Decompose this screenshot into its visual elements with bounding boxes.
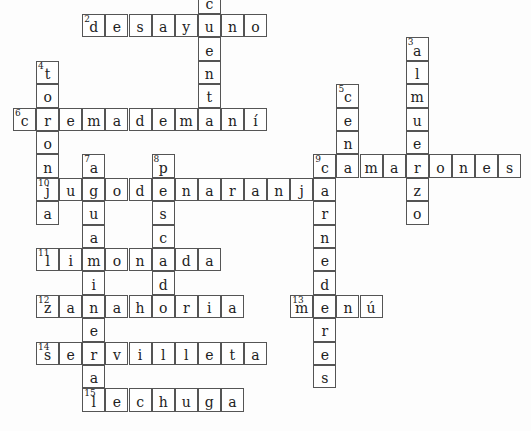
crossword-cell[interactable]: e: [313, 342, 336, 365]
crossword-cell[interactable]: u: [175, 388, 198, 411]
crossword-cell[interactable]: d: [129, 108, 152, 131]
crossword-cell[interactable]: 4t: [36, 61, 59, 84]
crossword-cell[interactable]: ú: [360, 295, 383, 318]
crossword-cell[interactable]: h: [129, 295, 152, 318]
crossword-cell[interactable]: e: [59, 342, 82, 365]
crossword-cell[interactable]: 12z: [36, 295, 59, 318]
crossword-cell[interactable]: e: [152, 178, 175, 201]
crossword-cell[interactable]: e: [198, 342, 221, 365]
crossword-cell[interactable]: a: [383, 154, 406, 177]
crossword-cell[interactable]: m: [406, 84, 429, 107]
crossword-cell[interactable]: y: [175, 14, 198, 37]
crossword-cell[interactable]: t: [221, 342, 244, 365]
crossword-cell[interactable]: m: [360, 154, 383, 177]
crossword-cell[interactable]: d: [129, 178, 152, 201]
crossword-cell[interactable]: e: [198, 37, 221, 60]
crossword-cell[interactable]: n: [452, 154, 475, 177]
crossword-cell[interactable]: m: [82, 108, 105, 131]
crossword-cell[interactable]: r: [313, 201, 336, 224]
crossword-cell[interactable]: a: [221, 388, 244, 411]
crossword-cell[interactable]: r: [406, 154, 429, 177]
crossword-cell[interactable]: n: [336, 295, 359, 318]
crossword-cell[interactable]: u: [198, 14, 221, 37]
crossword-cell[interactable]: c: [152, 225, 175, 248]
crossword-cell[interactable]: í: [244, 108, 267, 131]
crossword-cell[interactable]: u: [406, 108, 429, 131]
crossword-cell[interactable]: o: [105, 178, 128, 201]
crossword-cell[interactable]: a: [82, 365, 105, 388]
crossword-cell[interactable]: a: [152, 14, 175, 37]
crossword-cell[interactable]: a: [82, 225, 105, 248]
crossword-cell[interactable]: e: [313, 295, 336, 318]
crossword-cell[interactable]: v: [105, 342, 128, 365]
crossword-cell[interactable]: s: [498, 154, 521, 177]
crossword-cell[interactable]: g: [82, 178, 105, 201]
crossword-cell[interactable]: s: [129, 14, 152, 37]
crossword-cell[interactable]: r: [313, 318, 336, 341]
crossword-cell[interactable]: e: [59, 108, 82, 131]
crossword-cell[interactable]: o: [152, 295, 175, 318]
crossword-cell[interactable]: 15l: [82, 388, 105, 411]
crossword-cell[interactable]: a: [198, 248, 221, 271]
crossword-cell[interactable]: s: [313, 365, 336, 388]
crossword-cell[interactable]: e: [336, 108, 359, 131]
crossword-cell[interactable]: a: [198, 108, 221, 131]
crossword-cell[interactable]: 6c: [13, 108, 36, 131]
crossword-cell[interactable]: o: [429, 154, 452, 177]
crossword-cell[interactable]: m: [82, 248, 105, 271]
crossword-cell[interactable]: a: [244, 178, 267, 201]
crossword-cell[interactable]: n: [129, 248, 152, 271]
crossword-cell[interactable]: o: [36, 131, 59, 154]
crossword-cell[interactable]: 9c: [313, 154, 336, 177]
crossword-cell[interactable]: d: [313, 271, 336, 294]
crossword-cell[interactable]: r: [82, 342, 105, 365]
crossword-cell[interactable]: a: [221, 295, 244, 318]
crossword-cell[interactable]: a: [336, 154, 359, 177]
crossword-cell[interactable]: 3a: [406, 37, 429, 60]
crossword-cell[interactable]: s: [152, 201, 175, 224]
crossword-cell[interactable]: 11l: [36, 248, 59, 271]
crossword-cell[interactable]: l: [406, 61, 429, 84]
crossword-cell[interactable]: i: [198, 295, 221, 318]
crossword-cell[interactable]: m: [175, 108, 198, 131]
crossword-cell[interactable]: 10j: [36, 178, 59, 201]
crossword-cell[interactable]: u: [82, 201, 105, 224]
crossword-cell[interactable]: 5c: [336, 84, 359, 107]
crossword-cell[interactable]: i: [82, 271, 105, 294]
crossword-cell[interactable]: a: [105, 295, 128, 318]
crossword-cell[interactable]: e: [82, 318, 105, 341]
crossword-cell[interactable]: e: [105, 14, 128, 37]
crossword-cell[interactable]: e: [313, 248, 336, 271]
crossword-cell[interactable]: o: [406, 201, 429, 224]
crossword-cell[interactable]: a: [59, 295, 82, 318]
crossword-cell[interactable]: o: [105, 248, 128, 271]
crossword-cell[interactable]: e: [406, 131, 429, 154]
crossword-cell[interactable]: n: [221, 14, 244, 37]
crossword-cell[interactable]: 8p: [152, 154, 175, 177]
crossword-cell[interactable]: n: [36, 154, 59, 177]
crossword-cell[interactable]: l: [152, 342, 175, 365]
crossword-cell[interactable]: u: [59, 178, 82, 201]
crossword-cell[interactable]: a: [244, 342, 267, 365]
crossword-cell[interactable]: r: [36, 108, 59, 131]
crossword-cell[interactable]: j: [290, 178, 313, 201]
crossword-cell[interactable]: n: [267, 178, 290, 201]
crossword-cell[interactable]: a: [313, 178, 336, 201]
crossword-cell[interactable]: e: [152, 108, 175, 131]
crossword-cell[interactable]: z: [406, 178, 429, 201]
crossword-cell[interactable]: n: [198, 61, 221, 84]
crossword-cell[interactable]: a: [105, 108, 128, 131]
crossword-cell[interactable]: a: [198, 178, 221, 201]
crossword-cell[interactable]: d: [175, 248, 198, 271]
crossword-cell[interactable]: a: [36, 201, 59, 224]
crossword-cell[interactable]: c: [198, 0, 221, 14]
crossword-cell[interactable]: n: [336, 131, 359, 154]
crossword-cell[interactable]: n: [175, 178, 198, 201]
crossword-cell[interactable]: 13m: [290, 295, 313, 318]
crossword-cell[interactable]: h: [152, 388, 175, 411]
crossword-cell[interactable]: i: [59, 248, 82, 271]
crossword-cell[interactable]: 7a: [82, 154, 105, 177]
crossword-cell[interactable]: n: [313, 225, 336, 248]
crossword-cell[interactable]: e: [105, 388, 128, 411]
crossword-cell[interactable]: r: [175, 295, 198, 318]
